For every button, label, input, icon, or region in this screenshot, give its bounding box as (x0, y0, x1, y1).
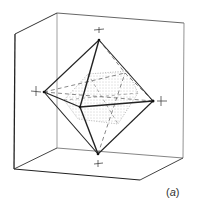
vertex-right (152, 100, 155, 103)
cube-left-top-edge (15, 13, 57, 34)
cube-back-bottom-edge (57, 148, 183, 158)
cube-back-right-edge (183, 23, 184, 158)
left-axis-marker-icon (31, 86, 41, 96)
top-axis-marker-icon (94, 27, 104, 33)
figure-label: (a) (166, 186, 179, 198)
vertex-top (98, 39, 101, 42)
cube-back-top-edge (57, 13, 184, 23)
label-close-paren: ) (176, 186, 180, 198)
vertex-front (79, 106, 82, 109)
bottom-axis-marker-icon (94, 160, 103, 167)
cube-floor-right-edge (140, 158, 183, 180)
right-axis-marker-icon (157, 96, 167, 106)
vertex-left (43, 91, 46, 94)
cube-left-front-edge (14, 34, 15, 169)
octahedron-in-cube-diagram (0, 0, 203, 208)
cube-left-bottom-edge (14, 148, 57, 169)
cube-floor-front-edge (14, 169, 140, 180)
vertex-bottom (97, 153, 100, 156)
